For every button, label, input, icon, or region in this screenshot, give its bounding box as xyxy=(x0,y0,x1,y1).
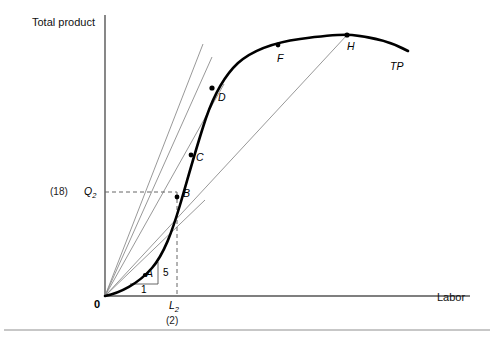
point-marker-d xyxy=(209,85,214,90)
origin-label: 0 xyxy=(94,299,100,310)
point-marker-h xyxy=(344,32,349,37)
curve-point-label-c: C xyxy=(196,152,204,163)
ray-through-a xyxy=(105,200,205,296)
total-product-figure: Total product Labor 0 Q2 (18) L2 (2) 1 5… xyxy=(0,0,494,340)
ray-through-h xyxy=(105,35,347,296)
x-tick-subscript: 2 xyxy=(175,305,179,314)
total-product-curve xyxy=(105,35,408,296)
y-axis-title: Total product xyxy=(32,17,95,28)
y-tick-letter: Q xyxy=(84,185,92,197)
point-marker-f xyxy=(276,43,281,48)
y-value-paren-label: (18) xyxy=(50,187,68,197)
curve-point-label-a: A xyxy=(146,268,153,279)
slope-run-label: 1 xyxy=(141,285,147,295)
ray-through-d xyxy=(105,44,203,296)
curve-point-label-d: D xyxy=(218,92,226,103)
slope-rise-label: 5 xyxy=(163,268,169,278)
curve-point-label-h: H xyxy=(347,41,355,52)
y-tick-subscript: 2 xyxy=(92,191,96,200)
point-marker-c xyxy=(189,153,194,158)
curve-point-label-f: F xyxy=(277,53,283,64)
x-value-paren-label: (2) xyxy=(166,316,178,326)
point-marker-b xyxy=(175,195,180,200)
curve-point-label-b: B xyxy=(183,188,190,199)
x-axis-title: Labor xyxy=(437,292,465,303)
curve-series-label-tp: TP xyxy=(390,61,403,72)
y-tick-label-q2: Q2 xyxy=(84,186,96,200)
x-tick-label-l2: L2 xyxy=(169,300,179,314)
chart-canvas xyxy=(0,0,494,340)
